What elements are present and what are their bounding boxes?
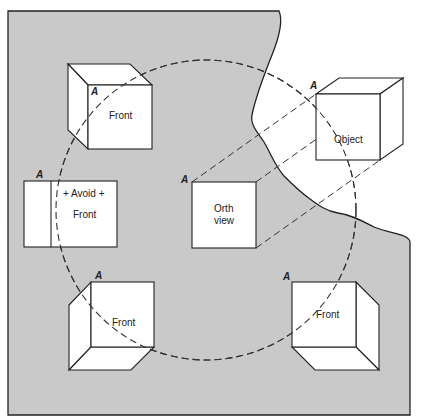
front-label-bottom-right: Front: [316, 309, 339, 320]
vertex-a-bottom-left: A: [95, 270, 102, 281]
object-cube: [316, 78, 403, 160]
top-left-cube: [68, 64, 152, 149]
object-label: Object: [334, 134, 363, 145]
front-label-bottom-left: Front: [112, 317, 135, 328]
bottom-right-cube: [292, 282, 379, 370]
avoid-label: + Avoid +: [63, 188, 105, 199]
front-label-avoid: Front: [73, 209, 96, 220]
view-label: view: [214, 215, 234, 226]
vertex-a-orth: A: [181, 174, 188, 185]
vertex-a-avoid: A: [36, 169, 43, 180]
vertex-a-object: A: [310, 80, 317, 91]
vertex-a-top-left: A: [91, 86, 98, 97]
vertex-a-bottom-right: A: [283, 271, 290, 282]
front-label-top-left: Front: [109, 110, 132, 121]
orthographic-view-diagram: [0, 0, 423, 418]
orth-label: Orth: [214, 203, 233, 214]
